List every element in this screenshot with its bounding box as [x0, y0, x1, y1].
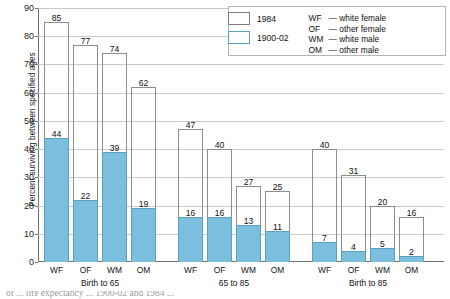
bar-1900-02: 2 [399, 256, 424, 262]
x-axis-tick-label: OM [271, 265, 285, 275]
bar-value-label-1984: 31 [349, 166, 359, 176]
y-axis-tick-mark [35, 206, 38, 207]
legend-item-1900-02: 1900-02 [228, 31, 289, 44]
y-axis-tick-label: 20 [24, 201, 34, 211]
bar-value-label-1900-02: 11 [273, 222, 282, 232]
y-axis-tick-mark [35, 93, 38, 94]
legend-swatch-1900-02 [228, 31, 250, 44]
x-axis-tick-label: WF [184, 265, 197, 275]
bar-value-label-1984: 27 [244, 177, 254, 187]
chart-figure: Percent surviving between specified ages… [0, 0, 450, 299]
figure-caption-cropped: of ... life expectancy ... 1900-02 and 1… [0, 291, 450, 299]
legend-item-1984: 1984 [228, 12, 289, 25]
bar-1900-02: 39 [102, 152, 127, 262]
gridline [38, 177, 444, 178]
bar-value-label-1984: 85 [52, 13, 62, 23]
y-axis-tick-label: 40 [24, 144, 34, 154]
x-axis-tick-label: WM [107, 265, 122, 275]
legend-abbreviation-text: — other female [329, 24, 386, 34]
legend-abbreviation-code: OM [309, 45, 329, 56]
y-axis-tick-label: 60 [24, 88, 34, 98]
bar-value-label-1984: 47 [186, 120, 196, 130]
caption-text: of ... life expectancy ... 1900-02 and 1… [6, 291, 174, 298]
x-axis-tick-label: OF [214, 265, 226, 275]
bar-1900-02: 4 [341, 251, 366, 262]
bar-1900-02: 13 [236, 225, 261, 262]
bar-1900-02: 16 [207, 217, 232, 262]
y-axis-tick-label: 10 [24, 229, 34, 239]
x-axis-tick-label: OM [137, 265, 151, 275]
bar-value-label-1900-02: 16 [186, 208, 196, 218]
x-axis-tick-label: OM [405, 265, 419, 275]
x-axis-tick-label: WF [50, 265, 63, 275]
y-axis-tick-label: 0 [29, 257, 34, 267]
bar-value-label-1900-02: 2 [409, 247, 414, 257]
bar-value-label-1984: 40 [320, 140, 330, 150]
bar-1900-02: 7 [312, 242, 337, 262]
y-axis-title: Percent surviving between specified ages [28, 5, 37, 255]
y-axis-tick-mark [35, 64, 38, 65]
x-axis-tick-label: OF [80, 265, 92, 275]
legend-abbreviation-row: WF— white female [309, 13, 387, 24]
bar-1900-02: 22 [73, 200, 98, 262]
bar-1900-02: 16 [178, 217, 203, 262]
x-axis-group-label: Birth to 65 [81, 278, 119, 288]
bar-value-label-1900-02: 19 [139, 199, 149, 209]
bar-value-label-1984: 74 [110, 44, 120, 54]
bar-value-label-1984: 20 [378, 197, 388, 207]
bar-value-label-1984: 40 [215, 140, 225, 150]
bar-value-label-1984: 62 [139, 78, 149, 88]
y-axis-tick-mark [35, 8, 38, 9]
bar-value-label-1900-02: 5 [380, 239, 385, 249]
bar-1900-02: 19 [131, 208, 156, 262]
legend-abbreviation-row: OM— other male [309, 45, 387, 56]
y-axis-tick-label: 30 [24, 172, 34, 182]
x-axis-tick-label: WF [318, 265, 331, 275]
legend-abbreviation-key: WF— white femaleOF— other femaleWM— whit… [309, 12, 387, 55]
bar-1900-02: 44 [44, 138, 69, 262]
bar-value-label-1984: 25 [273, 182, 283, 192]
y-axis-tick-mark [35, 121, 38, 122]
bar-value-label-1900-02: 39 [110, 143, 120, 153]
legend-abbreviation-row: WM— white male [309, 34, 387, 45]
y-axis-tick-label: 50 [24, 116, 34, 126]
legend-label-1900-02: 1900-02 [257, 33, 289, 43]
bar-value-label-1900-02: 44 [52, 129, 62, 139]
legend-abbreviation-row: OF— other female [309, 24, 387, 35]
x-axis-tick-label: WM [375, 265, 390, 275]
legend-abbreviation-code: OF [309, 24, 329, 35]
y-axis-tick-label: 90 [24, 3, 34, 13]
x-axis-tick-label: WM [241, 265, 256, 275]
y-axis-tick-mark [35, 234, 38, 235]
legend-abbreviation-text: — white female [329, 13, 387, 23]
legend-abbreviation-text: — other male [329, 45, 379, 55]
bar-value-label-1900-02: 7 [322, 233, 327, 243]
bar-value-label-1984: 16 [407, 208, 417, 218]
legend-abbreviation-code: WF [309, 13, 329, 24]
legend-series-list: 1984 1900-02 [228, 12, 289, 44]
bar-1900-02: 11 [265, 231, 290, 262]
y-axis-tick-label: 80 [24, 31, 34, 41]
legend-swatch-1984 [228, 12, 250, 25]
legend-label-1984: 1984 [257, 14, 276, 24]
y-axis-tick-mark [35, 177, 38, 178]
y-axis-tick-label: 70 [24, 59, 34, 69]
x-axis-group-label: Birth to 85 [349, 278, 387, 288]
bar-value-label-1900-02: 16 [215, 208, 225, 218]
gridline [38, 64, 444, 65]
gridline [38, 121, 444, 122]
bar-value-label-1984: 77 [81, 36, 91, 46]
y-axis-tick-mark [35, 149, 38, 150]
gridline [38, 93, 444, 94]
bar-1900-02: 5 [370, 248, 395, 262]
y-axis-tick-mark [35, 262, 38, 263]
y-axis-tick-mark [35, 36, 38, 37]
gridline [38, 149, 444, 150]
x-axis-group-label: 65 to 85 [219, 278, 249, 288]
y-axis-line [38, 8, 39, 262]
bar-value-label-1900-02: 13 [244, 216, 254, 226]
bar-value-label-1900-02: 4 [351, 242, 356, 252]
bar-value-label-1900-02: 22 [81, 191, 91, 201]
legend: 1984 1900-02 WF— white femaleOF— other f… [228, 12, 386, 55]
x-axis-tick-label: OF [348, 265, 360, 275]
